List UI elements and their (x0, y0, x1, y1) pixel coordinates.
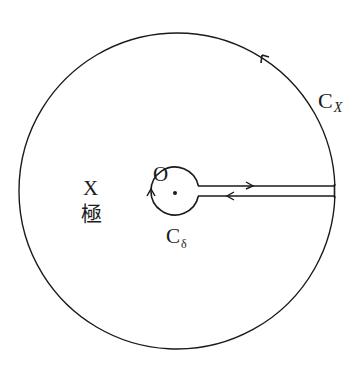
origin-label: O (153, 164, 168, 185)
cx-subscript: X (334, 100, 343, 115)
inner-contour-label: Cδ (166, 226, 186, 247)
contour-figure (0, 0, 358, 371)
kyoku-label: 極 (81, 204, 102, 225)
cdelta-subscript: δ (181, 237, 187, 251)
cdelta-main: C (166, 224, 180, 248)
outer-contour-label: CX (318, 90, 341, 112)
origin-dot (173, 191, 177, 195)
outer-circle-cx (19, 33, 335, 349)
cx-main: C (318, 88, 333, 113)
x-label: X (83, 178, 98, 199)
keyhole-contour-diagram: CX X 極 O Cδ (0, 0, 358, 371)
